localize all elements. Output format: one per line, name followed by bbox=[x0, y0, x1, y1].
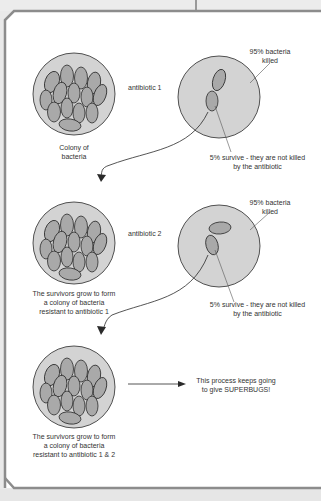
colony-dish bbox=[33, 53, 115, 135]
conclusion-text: This process keeps going to give SUPERBU… bbox=[191, 376, 281, 394]
diagram-canvas bbox=[0, 0, 321, 501]
label-line: 95% bacteria bbox=[240, 47, 300, 56]
caption-line: resistant to antibiotic 1 & 2 bbox=[22, 450, 126, 459]
caption-line: a colony of bacteria bbox=[22, 441, 126, 450]
label-line: killed bbox=[240, 56, 300, 65]
caption-line: The survivors grow to form bbox=[22, 289, 126, 298]
label-line: by the antibiotic bbox=[200, 162, 315, 171]
survive-label-2: 5% survive - they are not killed by the … bbox=[200, 300, 315, 318]
caption-line: Colony of bbox=[42, 143, 106, 152]
caption-line: bacteria bbox=[42, 152, 106, 161]
label-line: 95% bacteria bbox=[240, 198, 300, 207]
conclusion-line: to give SUPERBUGS! bbox=[191, 385, 281, 394]
resistant-1-caption: The survivors grow to form a colony of b… bbox=[22, 289, 126, 316]
colony-caption: Colony of bacteria bbox=[42, 143, 106, 161]
killed-label-2: 95% bacteria killed bbox=[240, 198, 300, 216]
caption-line: The survivors grow to form bbox=[22, 432, 126, 441]
antibiotic-1-label: antibiotic 1 bbox=[128, 83, 161, 92]
label-line: 5% survive - they are not killed bbox=[200, 300, 315, 309]
caption-line: a colony of bacteria bbox=[22, 298, 126, 307]
killed-label-1: 95% bacteria killed bbox=[240, 47, 300, 65]
label-line: killed bbox=[240, 207, 300, 216]
conclusion-line: This process keeps going bbox=[191, 376, 281, 385]
antibiotic-2-label: antibiotic 2 bbox=[128, 229, 161, 238]
caption-line: resistant to antibiotic 1 bbox=[22, 307, 126, 316]
survive-label-1: 5% survive - they are not killed by the … bbox=[200, 153, 315, 171]
label-line: by the antibiotic bbox=[200, 309, 315, 318]
label-line: 5% survive - they are not killed bbox=[200, 153, 315, 162]
resistant-2-caption: The survivors grow to form a colony of b… bbox=[22, 432, 126, 459]
resistant-colony-2 bbox=[33, 346, 115, 428]
resistant-colony-1 bbox=[33, 202, 115, 284]
